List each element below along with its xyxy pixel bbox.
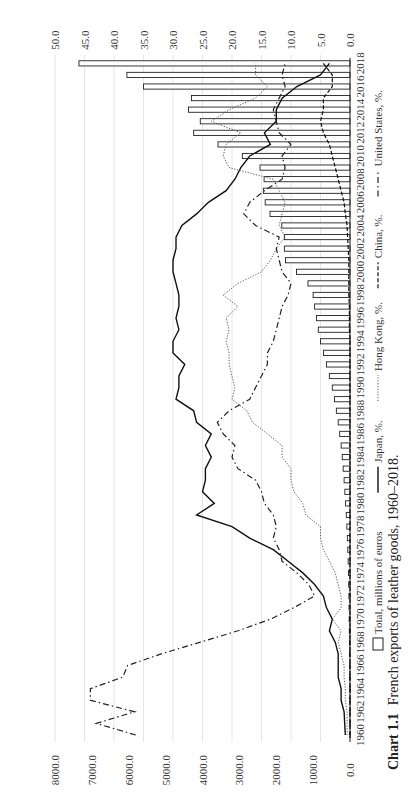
bar (284, 234, 350, 239)
legend-label: Japan, %. (372, 420, 384, 463)
right-axis-tick: 30.0 (167, 30, 179, 50)
right-axis-tick: 15.0 (256, 30, 268, 50)
bar (338, 420, 350, 425)
year-label: 1992 (354, 353, 366, 375)
right-axis-tick: 50.0 (49, 30, 61, 50)
bar (345, 489, 350, 494)
bar (297, 269, 350, 274)
left-axis-tick: 5000.0 (160, 754, 172, 785)
legend-swatch-bar (373, 638, 383, 650)
bar (332, 385, 350, 390)
year-label: 1970 (354, 608, 366, 631)
bar (326, 362, 350, 367)
bar (315, 304, 350, 309)
year-label: 2016 (354, 75, 366, 98)
right-axis-tick: 25.0 (197, 30, 209, 50)
year-label: 1978 (354, 515, 366, 538)
bar (242, 153, 350, 158)
year-label: 1982 (354, 469, 366, 491)
bar (265, 200, 350, 205)
right-axis-tick: 10.0 (285, 30, 297, 50)
year-label: 1994 (354, 330, 366, 353)
bar (144, 84, 351, 89)
bar (308, 281, 350, 286)
bar (264, 177, 350, 182)
left-axis-tick: 7000.0 (86, 754, 98, 785)
right-axis-tick: 35.0 (138, 30, 150, 50)
right-axis-tick: 40.0 (108, 30, 120, 50)
year-label: 1980 (354, 492, 366, 515)
bar (194, 130, 350, 135)
legend-label: China, %. (372, 214, 384, 258)
bar (313, 292, 350, 297)
left-axis-tick: 0.0 (344, 763, 356, 777)
caption-label: Chart 1.1 (386, 713, 401, 770)
bar (341, 443, 350, 448)
year-label: 1996 (354, 307, 366, 330)
caption-text: French exports of leather goods, 1960–20… (386, 454, 401, 705)
year-label: 2012 (354, 122, 366, 144)
chart-svg: 0.05.010.015.020.025.030.035.040.045.050… (0, 0, 415, 792)
year-label: 1972 (354, 585, 366, 607)
year-label: 1984 (354, 446, 366, 469)
bar (321, 339, 351, 344)
bar (318, 327, 350, 332)
right-axis-tick: 20.0 (226, 30, 238, 50)
year-label: 2000 (354, 260, 366, 283)
year-label: 1964 (354, 677, 366, 700)
legend-label: Total, millions of euros (372, 532, 384, 635)
bar (336, 408, 350, 413)
year-label: 2002 (354, 238, 366, 260)
bar (284, 246, 350, 251)
left-axis-tick: 1000.0 (307, 754, 319, 785)
year-label: 2010 (354, 145, 366, 168)
left-axis-tick: 3000.0 (233, 754, 245, 785)
year-label: 1960 (354, 724, 366, 747)
right-axis-tick: 5.0 (315, 33, 327, 47)
year-label: 1990 (354, 376, 366, 399)
year-label: 2004 (354, 214, 366, 237)
bar (282, 223, 350, 228)
left-axis-tick: 6000.0 (123, 754, 135, 785)
bar (188, 107, 350, 112)
legend-label: United States, %. (372, 90, 384, 167)
year-label: 1976 (354, 538, 366, 561)
bar (323, 350, 350, 355)
bar (346, 501, 350, 506)
bar (329, 373, 350, 378)
left-axis-tick: 8000.0 (49, 754, 61, 785)
bar (285, 258, 350, 263)
year-label: 2018 (354, 52, 366, 75)
year-label: 1998 (354, 283, 366, 306)
right-axis-tick: 45.0 (79, 30, 91, 50)
left-axis-tick: 4000.0 (197, 754, 209, 785)
legend-label: Hong Kong, %. (372, 302, 384, 371)
year-label: 1962 (354, 701, 366, 723)
year-label: 1968 (354, 631, 366, 654)
year-label: 1988 (354, 399, 366, 422)
bar (343, 466, 350, 471)
year-label: 1986 (354, 422, 366, 445)
bar (344, 478, 350, 483)
year-label: 1966 (354, 654, 366, 677)
bar (335, 397, 350, 402)
year-label: 1974 (354, 561, 366, 584)
bar (340, 431, 350, 436)
year-label: 2008 (354, 168, 366, 191)
bar (316, 316, 350, 321)
bar (79, 61, 350, 66)
bar (260, 165, 350, 170)
bar (191, 96, 350, 101)
bar (342, 454, 350, 459)
line-japan- (173, 63, 345, 735)
bar (263, 188, 350, 193)
year-label: 2014 (354, 98, 366, 121)
left-axis-tick: 2000.0 (270, 754, 282, 785)
chart-caption: Chart 1.1French exports of leather goods… (386, 454, 402, 770)
chart: 0.05.010.015.020.025.030.035.040.045.050… (0, 0, 415, 792)
year-label: 2006 (354, 191, 366, 214)
right-axis-tick: 0.0 (344, 33, 356, 47)
